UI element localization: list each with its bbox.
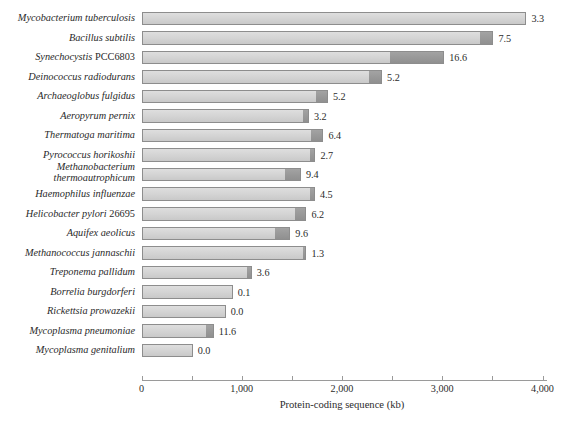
x-axis-tick: [392, 376, 393, 380]
bar-value-label: 0.1: [238, 287, 251, 298]
bar: [142, 187, 315, 201]
x-axis-tick-label: 4,000: [513, 383, 561, 394]
x-axis-tick-label: 3,000: [412, 383, 472, 394]
bar-value-label: 5.2: [333, 91, 346, 102]
x-axis-tick: [492, 376, 493, 380]
category-label: Thermatoga maritima: [0, 130, 135, 141]
bar-segment-noncoding: [247, 267, 251, 279]
bar: [142, 148, 316, 162]
bar-value-label: 7.5: [498, 33, 511, 44]
category-label: Treponema pallidum: [0, 267, 135, 278]
bar-value-label: 11.6: [219, 326, 236, 337]
x-axis-line: [142, 380, 547, 381]
category-label: Mycoplasma genitalium: [0, 345, 135, 356]
bar-segment-noncoding: [303, 110, 308, 122]
bar-value-label: 1.3: [311, 248, 324, 259]
bar-segment-noncoding: [275, 228, 290, 240]
bar-value-label: 0.0: [231, 306, 244, 317]
category-label: Archaeoglobus fulgidus: [0, 91, 135, 102]
x-axis-tick: [142, 376, 143, 380]
bar-segment-noncoding: [310, 188, 314, 200]
category-label: Methanococcus jannaschii: [0, 248, 135, 259]
x-axis-tick: [543, 376, 544, 380]
bar-value-label: 3.2: [314, 111, 327, 122]
bar-value-label: 16.6: [449, 52, 467, 63]
bar-segment-noncoding: [310, 149, 315, 161]
bar-value-label: 9.4: [306, 169, 319, 180]
bar: [142, 246, 307, 260]
bar-value-label: 4.5: [320, 189, 333, 200]
category-label: Haemophilus influenzae: [0, 189, 135, 200]
x-axis-tick: [342, 376, 343, 380]
bar: [142, 227, 291, 241]
category-label: Bacillus subtilis: [0, 33, 135, 44]
x-axis-tick: [192, 376, 193, 380]
x-axis-title: Protein-coding sequence (kb): [142, 399, 543, 410]
bar: [142, 266, 252, 280]
category-label: Aeropyrum pernix: [0, 111, 135, 122]
bar-segment-noncoding: [316, 91, 327, 103]
category-label: Deinococcus radiodurans: [0, 72, 135, 83]
category-label: Borrelia burgdorferi: [0, 287, 135, 298]
x-axis-tick: [292, 376, 293, 380]
bar-value-label: 9.6: [295, 228, 308, 239]
x-axis-tick-label: 0: [112, 383, 172, 394]
bar: [142, 207, 307, 221]
bar-segment-noncoding: [311, 130, 323, 142]
category-label: Pyrococcus horikoshii: [0, 150, 135, 161]
bar: [142, 90, 328, 104]
bar-value-label: 3.3: [531, 13, 544, 24]
bar-segment-noncoding: [303, 247, 306, 259]
category-label: Rickettsia prowazekii: [0, 306, 135, 317]
bar-segment-noncoding: [390, 52, 443, 64]
bar-segment-noncoding: [480, 32, 492, 44]
bar-value-label: 6.4: [328, 130, 341, 141]
bar: [142, 12, 527, 26]
bar: [142, 168, 301, 182]
bar: [142, 109, 309, 123]
category-label: Aquifex aeolicus: [0, 228, 135, 239]
bar-segment-noncoding: [295, 208, 306, 220]
protein-coding-sequence-bar-chart: Mycobacterium tuberculosis3.3Bacillus su…: [0, 0, 561, 427]
x-axis-tick-label: 2,000: [312, 383, 372, 394]
x-axis-tick-label: 1,000: [212, 383, 272, 394]
category-label: Helicobacter pylori 26695: [0, 209, 135, 220]
x-axis-tick: [442, 376, 443, 380]
bar-segment-noncoding: [285, 169, 300, 181]
bar: [142, 51, 445, 65]
bar: [142, 305, 226, 319]
category-label: Mycoplasma pneumoniae: [0, 326, 135, 337]
bar: [142, 344, 193, 358]
bar-value-label: 2.7: [320, 150, 333, 161]
bar-segment-noncoding: [369, 71, 381, 83]
category-label: Methanobacteriumthermoautrophicum: [0, 162, 135, 182]
category-label: Synechocystis PCC6803: [0, 52, 135, 63]
category-label: Mycobacterium tuberculosis: [0, 13, 135, 24]
bar: [142, 31, 494, 45]
bar: [142, 129, 324, 143]
bar-value-label: 0.0: [198, 345, 211, 356]
bar: [142, 70, 383, 84]
x-axis-tick: [242, 376, 243, 380]
bar-value-label: 3.6: [257, 267, 270, 278]
bar-value-label: 6.2: [311, 209, 324, 220]
bar-value-label: 5.2: [387, 72, 400, 83]
bar-segment-noncoding: [206, 325, 213, 337]
bar: [142, 285, 233, 299]
bar: [142, 324, 214, 338]
